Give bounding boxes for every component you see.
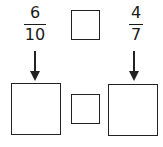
top-compare-box[interactable] bbox=[71, 10, 100, 40]
fraction-left: 6 10 bbox=[20, 5, 50, 44]
fraction-right-numerator: 4 bbox=[121, 5, 151, 22]
bottom-middle-compare-box[interactable] bbox=[71, 94, 100, 124]
fraction-right: 4 7 bbox=[121, 5, 151, 44]
arrow-down-left-icon bbox=[30, 51, 40, 81]
fraction-right-denominator: 7 bbox=[121, 27, 151, 44]
bottom-right-answer-box[interactable] bbox=[108, 84, 158, 136]
fraction-left-denominator: 10 bbox=[20, 27, 50, 44]
bottom-left-answer-box[interactable] bbox=[11, 83, 61, 135]
arrow-down-right-icon bbox=[129, 51, 139, 81]
fraction-left-numerator: 6 bbox=[20, 5, 50, 22]
